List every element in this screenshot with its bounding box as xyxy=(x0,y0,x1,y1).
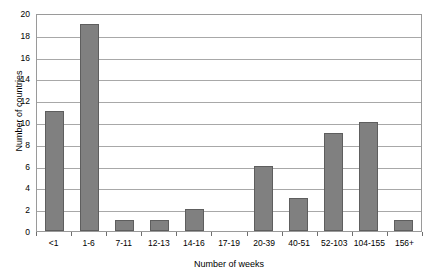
bar xyxy=(359,122,378,231)
x-tick-label: 12-13 xyxy=(141,238,176,248)
x-tick-mark xyxy=(211,232,212,236)
plot-area xyxy=(36,14,422,232)
x-tick-label: 17-19 xyxy=(211,238,246,248)
y-tick-label: 20 xyxy=(8,10,30,18)
bar-slot xyxy=(107,15,142,231)
x-tick-label: 156+ xyxy=(387,238,422,248)
y-tick-label: 12 xyxy=(8,97,30,105)
bar xyxy=(394,220,413,231)
x-tick-mark xyxy=(352,232,353,236)
bar xyxy=(45,111,64,231)
bar-slot xyxy=(177,15,212,231)
bar xyxy=(80,24,99,231)
bar-slot xyxy=(212,15,247,231)
y-tick-label: 4 xyxy=(8,184,30,192)
x-axis-title: Number of weeks xyxy=(36,259,422,269)
bar-slot xyxy=(246,15,281,231)
x-tick-label: 7-11 xyxy=(106,238,141,248)
bar-slot xyxy=(72,15,107,231)
y-tick-label: 10 xyxy=(8,119,30,127)
x-tick-mark xyxy=(317,232,318,236)
y-tick-label: 18 xyxy=(8,32,30,40)
x-tick-mark xyxy=(141,232,142,236)
bar xyxy=(150,220,169,231)
y-tick-label: 0 xyxy=(8,228,30,236)
bar xyxy=(115,220,134,231)
x-tick-mark xyxy=(387,232,388,236)
bar-slot xyxy=(386,15,421,231)
x-tick-mark xyxy=(247,232,248,236)
bar-slot xyxy=(316,15,351,231)
bar xyxy=(324,133,343,231)
y-tick-label: 2 xyxy=(8,206,30,214)
bar-slot xyxy=(142,15,177,231)
y-tick-label: 14 xyxy=(8,75,30,83)
x-tick-label: 104-155 xyxy=(352,238,387,248)
x-tick-label: 20-39 xyxy=(247,238,282,248)
x-tick-label: 52-103 xyxy=(317,238,352,248)
x-axis-ticks xyxy=(36,232,422,237)
bar-chart-figure: Number of countries 02468101214161820 <1… xyxy=(0,0,435,280)
x-tick-label: <1 xyxy=(36,238,71,248)
x-tick-mark xyxy=(71,232,72,236)
bar-slot xyxy=(351,15,386,231)
bar xyxy=(185,209,204,231)
x-tick-label: 40-51 xyxy=(282,238,317,248)
y-axis-tick-labels: 02468101214161820 xyxy=(8,14,30,232)
y-tick-label: 8 xyxy=(8,141,30,149)
bar-slot xyxy=(281,15,316,231)
bar xyxy=(254,166,273,231)
bar xyxy=(289,198,308,231)
y-tick-label: 6 xyxy=(8,163,30,171)
y-tick-label: 16 xyxy=(8,54,30,62)
x-tick-mark xyxy=(36,232,37,236)
bar-slot xyxy=(37,15,72,231)
bars-layer xyxy=(37,15,421,231)
x-tick-label: 14-16 xyxy=(176,238,211,248)
x-tick-label: 1-6 xyxy=(71,238,106,248)
x-tick-mark xyxy=(176,232,177,236)
x-axis-tick-labels: <11-67-1112-1314-1617-1920-3940-5152-103… xyxy=(36,238,422,248)
x-tick-mark xyxy=(422,232,423,236)
x-tick-mark xyxy=(106,232,107,236)
x-tick-mark xyxy=(282,232,283,236)
